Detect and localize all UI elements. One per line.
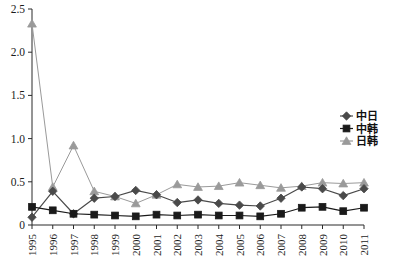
series-japan-korea (28, 19, 369, 206)
x-tick-label: 2004 (213, 234, 225, 257)
x-tick-label: 2011 (358, 234, 370, 256)
y-tick-label: 0 (19, 219, 25, 231)
x-tick-label: 2005 (234, 234, 246, 257)
x-tick-label: 2002 (171, 234, 183, 256)
x-tick-label: 1997 (68, 234, 80, 257)
y-tick-label: 2.0 (11, 46, 26, 58)
y-axis-ticks: 00.51.01.52.02.5 (11, 3, 32, 231)
y-tick-label: 1.0 (11, 133, 26, 145)
figure-caption (0, 259, 395, 267)
x-tick-label: 2006 (254, 234, 266, 257)
y-tick-label: 1.5 (11, 89, 26, 101)
y-tick-label: 2.5 (11, 3, 26, 15)
diamond-marker-icon (342, 112, 350, 120)
legend-item-china-japan[interactable]: 中日 (340, 109, 378, 123)
x-tick-label: 2000 (130, 234, 142, 257)
legend-label: 中日 (356, 109, 378, 123)
line-chart-figure: 00.51.01.52.02.5199519961997199819992000… (0, 0, 395, 267)
x-tick-label: 2007 (275, 234, 287, 257)
chart-plot-area: 00.51.01.52.02.5199519961997199819992000… (0, 0, 395, 267)
x-tick-label: 2008 (296, 234, 308, 257)
x-tick-label: 1995 (26, 234, 38, 257)
x-tick-label: 1996 (47, 234, 59, 257)
x-tick-label: 1999 (109, 234, 121, 257)
axes-group (32, 9, 364, 225)
x-tick-label: 2010 (337, 234, 349, 257)
legend-item-japan-korea[interactable]: 日韩 (340, 134, 378, 148)
y-tick-label: 0.5 (11, 176, 26, 188)
series-china-korea (29, 203, 368, 219)
legend-label: 中韩 (356, 122, 378, 136)
x-tick-label: 1998 (88, 234, 100, 257)
x-tick-label: 2001 (151, 234, 163, 256)
legend-label: 日韩 (356, 134, 378, 148)
square-marker-icon (343, 125, 350, 132)
x-axis-ticks: 1995199619971998199920002001200220032004… (26, 225, 370, 256)
x-tick-label: 2009 (317, 234, 329, 257)
legend-item-china-korea[interactable]: 中韩 (340, 122, 378, 136)
x-tick-label: 2003 (192, 234, 204, 257)
chart-legend: 中日中韩日韩 (340, 109, 378, 148)
